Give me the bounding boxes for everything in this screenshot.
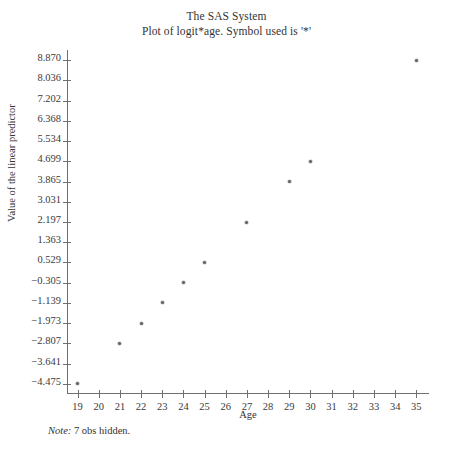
- data-point: [202, 260, 207, 265]
- y-tick-mark: [63, 242, 71, 243]
- plot-area: 8.8708.0367.2026.3685.5344.6993.8653.031…: [67, 50, 429, 394]
- y-tick-mark: [63, 80, 71, 81]
- data-point: [414, 58, 419, 63]
- data-point: [308, 159, 313, 164]
- y-tick-label: −3.641: [31, 356, 61, 367]
- footnote-label: Note:: [48, 425, 71, 436]
- data-point: [139, 321, 144, 326]
- x-tick-mark: [353, 390, 354, 398]
- y-tick-mark: [63, 364, 71, 365]
- x-tick-mark: [416, 390, 417, 398]
- y-tick-label: 3.865: [37, 174, 61, 185]
- y-tick-mark: [63, 182, 71, 183]
- x-tick-mark: [141, 390, 142, 398]
- x-tick-mark: [78, 390, 79, 398]
- y-tick-label: 5.534: [37, 133, 61, 144]
- data-point: [75, 381, 80, 386]
- data-point: [181, 280, 186, 285]
- x-tick-mark: [120, 390, 121, 398]
- y-tick-mark: [63, 283, 71, 284]
- y-tick-mark: [63, 141, 71, 142]
- y-tick-mark: [63, 384, 71, 385]
- y-tick-mark: [63, 343, 71, 344]
- y-tick-mark: [63, 202, 71, 203]
- data-point: [117, 341, 122, 346]
- y-tick-mark: [63, 101, 71, 102]
- chart-title-block: The SAS System Plot of logit*age. Symbol…: [0, 9, 453, 39]
- y-tick-label: 1.363: [37, 234, 61, 245]
- y-tick-label: 3.031: [37, 194, 61, 205]
- x-tick-mark: [99, 390, 100, 398]
- y-tick-mark: [63, 323, 71, 324]
- y-tick-label: −4.475: [31, 376, 61, 387]
- y-tick-label: 8.036: [37, 72, 61, 83]
- data-point: [287, 179, 292, 184]
- x-tick-mark: [310, 390, 311, 398]
- x-tick-mark: [183, 390, 184, 398]
- x-tick-mark: [205, 390, 206, 398]
- chart-title: The SAS System: [0, 9, 453, 24]
- y-tick-label: −1.139: [31, 295, 61, 306]
- y-tick-label: 8.870: [37, 52, 61, 63]
- x-tick-mark: [332, 390, 333, 398]
- x-tick-mark: [226, 390, 227, 398]
- y-axis-title: Value of the linear predictor: [6, 104, 17, 222]
- y-tick-label: 6.368: [37, 113, 61, 124]
- sas-scatter-plot-figure: The SAS System Plot of logit*age. Symbol…: [0, 0, 453, 452]
- x-tick-mark: [268, 390, 269, 398]
- data-point: [244, 220, 249, 225]
- x-tick-mark: [289, 390, 290, 398]
- y-tick-label: 7.202: [37, 93, 61, 104]
- chart-subtitle: Plot of logit*age. Symbol used is '*': [0, 24, 453, 39]
- y-tick-mark: [63, 303, 71, 304]
- y-tick-mark: [63, 161, 71, 162]
- y-tick-mark: [63, 262, 71, 263]
- data-point: [160, 300, 165, 305]
- y-tick-label: 2.197: [37, 214, 61, 225]
- y-tick-mark: [63, 222, 71, 223]
- x-tick-mark: [162, 390, 163, 398]
- footnote: Note: 7 obs hidden.: [48, 425, 130, 436]
- y-tick-label: 4.699: [37, 153, 61, 164]
- y-tick-label: 0.529: [37, 254, 61, 265]
- y-tick-mark: [63, 60, 71, 61]
- y-tick-label: −1.973: [31, 315, 61, 326]
- x-tick-mark: [247, 390, 248, 398]
- y-tick-label: −0.305: [31, 275, 61, 286]
- y-tick-label: −2.807: [31, 335, 61, 346]
- y-tick-mark: [63, 121, 71, 122]
- x-tick-mark: [374, 390, 375, 398]
- x-axis-title: Age: [67, 409, 429, 420]
- footnote-text: 7 obs hidden.: [71, 425, 130, 436]
- x-tick-mark: [395, 390, 396, 398]
